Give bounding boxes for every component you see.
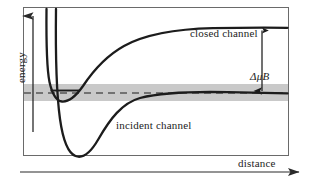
y-axis-label: energy bbox=[16, 38, 27, 98]
incident-channel-label: incident channel bbox=[116, 120, 192, 131]
energy-splitting-label: ΔμB bbox=[250, 71, 269, 82]
closed-channel-label: closed channel bbox=[190, 28, 258, 39]
feshbach-potential-figure: energy distance closed channel incident … bbox=[0, 0, 319, 193]
x-axis-label: distance bbox=[238, 158, 276, 169]
